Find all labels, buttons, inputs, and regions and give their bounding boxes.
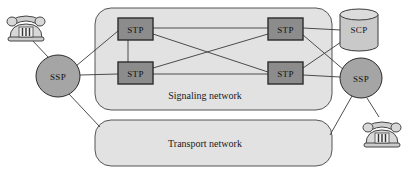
phone-base-plate <box>364 143 400 147</box>
link-phone-left-ssp-left <box>32 40 49 58</box>
stp-label: STP <box>277 69 293 79</box>
ssp-right[interactable]: SSP <box>340 58 382 98</box>
stp-label: STP <box>277 25 293 35</box>
stp-top-left[interactable]: STP <box>118 18 153 40</box>
phone-base-plate <box>8 37 44 41</box>
ssp-left[interactable]: SSP <box>36 55 80 97</box>
diagram-canvas: Signaling network Transport network STP … <box>0 0 407 175</box>
signaling-network-label: Signaling network <box>168 90 242 101</box>
stp-top-right[interactable]: STP <box>268 18 303 40</box>
scp-node[interactable]: SCP <box>340 9 378 51</box>
stp-bottom-right[interactable]: STP <box>268 62 303 84</box>
stp-label: STP <box>127 25 143 35</box>
stp-label: STP <box>127 69 143 79</box>
link-ssp-right-phone-right <box>367 98 379 117</box>
network-diagram: Signaling network Transport network STP … <box>0 0 407 175</box>
phone-handset-right-cup <box>391 123 401 132</box>
phone-handset-left-cup <box>7 17 17 26</box>
link-ssp-right-transport-network <box>330 96 352 135</box>
phone-left-icon[interactable] <box>7 16 45 41</box>
scp-label: SCP <box>351 25 368 35</box>
transport-network-label: Transport network <box>168 138 242 149</box>
phone-right-icon[interactable] <box>363 122 401 147</box>
phone-handset-right-cup <box>35 17 45 26</box>
ssp-label: SSP <box>353 74 369 84</box>
scp-cylinder-top <box>340 9 378 20</box>
stp-bottom-left[interactable]: STP <box>118 62 153 84</box>
ssp-label: SSP <box>50 72 66 82</box>
phone-handset-left-cup <box>363 123 373 132</box>
